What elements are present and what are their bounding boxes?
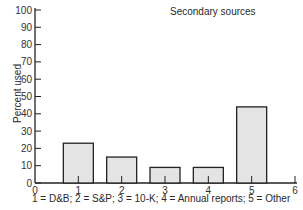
x-tick-label: 6 [292,185,298,196]
y-tick-label: 30 [21,126,33,137]
y-tick-label: 10 [21,160,33,171]
y-axis-label: Percent used [12,64,23,123]
y-tick-label: 80 [21,39,33,50]
bar-chart: 01020304050607080901000123456 Secondary … [0,0,303,210]
y-tick-label: 20 [21,143,33,154]
bar-5 [237,107,267,183]
y-tick-label: 100 [15,5,32,16]
plot-area: 01020304050607080901000123456 [0,0,303,210]
y-tick-label: 90 [21,22,33,33]
x-axis-caption: 1 = D&B; 2 = S&P; 3 = 10-K; 4 = Annual r… [32,193,290,204]
chart-title: Secondary sources [170,6,256,17]
